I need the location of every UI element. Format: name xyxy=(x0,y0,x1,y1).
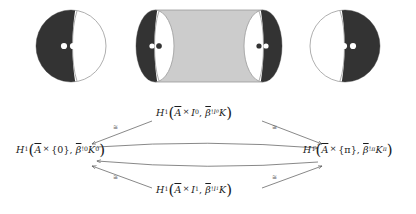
node-top-times: × xyxy=(181,108,191,116)
arrow-label-bottom-right: ≅ xyxy=(272,174,277,180)
arrow-bottom-to-left xyxy=(92,166,152,188)
node-top-K: K xyxy=(219,108,226,118)
node-top-paren-close: ) xyxy=(226,108,232,119)
node-right-A: A xyxy=(321,145,328,155)
node-left-paren-close: ) xyxy=(99,145,105,156)
node-right-H: H xyxy=(303,145,311,155)
diagram-node-right: H1 ( A × {π}, β!π Kπ ) xyxy=(303,144,393,155)
node-bottom-H: H xyxy=(156,185,164,195)
diagram-node-top: H1 ( A × I0, β!I0 K ) xyxy=(156,107,232,118)
arrow-label-bottom-left: ≅ xyxy=(113,174,118,180)
disk-right-marked-point-1 xyxy=(341,43,347,49)
cylinder-left-cap-marked-point-1 xyxy=(149,43,154,48)
page-root: ≅ ≅ ≅ ≅ H1 ( A × I0, β!I0 K ) H1 ( A × xyxy=(0,0,416,214)
disk-right-marked-point-2 xyxy=(350,43,356,49)
node-top-H: H xyxy=(156,108,164,118)
disk-right xyxy=(307,6,383,86)
cylinder-left-cap-marked-point-2 xyxy=(156,43,161,48)
arrow-label-top-right: ≅ xyxy=(272,124,277,130)
node-top-A: A xyxy=(174,108,181,118)
disk-left-marked-point-2 xyxy=(70,43,76,49)
disk-left-svg xyxy=(33,6,109,86)
arrow-bottom-to-right xyxy=(262,166,322,188)
arrow-top-to-right xyxy=(262,121,322,144)
diagram-arrows xyxy=(0,104,416,214)
figure-illustration xyxy=(0,0,416,100)
node-bottom-times: × xyxy=(181,185,191,193)
arrow-left-to-right-upper xyxy=(97,143,318,148)
node-bottom-A: A xyxy=(174,185,181,195)
node-bottom-paren-close: ) xyxy=(226,185,232,196)
node-left-H: H xyxy=(16,145,24,155)
node-bottom-K: K xyxy=(219,185,226,195)
node-right-beta: β xyxy=(363,145,369,155)
node-right-arg: {π} xyxy=(338,145,357,155)
node-left-arg: {0} xyxy=(51,145,69,155)
node-left-A: A xyxy=(34,145,41,155)
node-left-paren-open: ( xyxy=(28,145,34,156)
arrow-label-top-left: ≅ xyxy=(113,124,118,130)
arrow-right-to-left-lower xyxy=(97,161,318,166)
node-left-times: × xyxy=(41,145,51,153)
node-right-paren-close: ) xyxy=(387,145,393,156)
node-bottom-paren-open: ( xyxy=(168,185,174,196)
node-left-K: K xyxy=(88,145,95,155)
cylinder-svg xyxy=(133,6,285,86)
cylinder xyxy=(133,6,285,86)
cylinder-right-cap-marked-point-1 xyxy=(256,43,261,48)
node-top-paren-open: ( xyxy=(168,108,174,119)
commutative-diagram: ≅ ≅ ≅ ≅ H1 ( A × I0, β!I0 K ) H1 ( A × xyxy=(0,104,416,214)
node-right-K: K xyxy=(375,145,382,155)
node-right-times: × xyxy=(328,145,338,153)
diagram-node-bottom: H1 ( A × I1, β!I1 K ) xyxy=(156,184,232,195)
disk-left xyxy=(33,6,109,86)
diagram-node-left: H1 ( A × {0}, β!0 K0 ) xyxy=(16,144,105,155)
node-right-paren-open: ( xyxy=(315,145,321,156)
disk-left-marked-point-1 xyxy=(61,43,67,49)
disk-right-svg xyxy=(307,6,383,86)
cylinder-right-cap-marked-point-2 xyxy=(263,43,268,48)
